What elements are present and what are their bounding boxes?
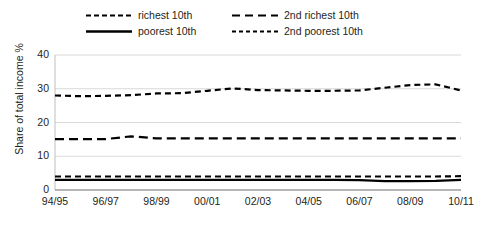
series-line	[55, 180, 461, 181]
series-line	[55, 84, 461, 96]
series-line	[55, 136, 461, 139]
